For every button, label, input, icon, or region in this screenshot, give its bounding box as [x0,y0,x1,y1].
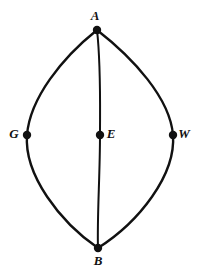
vertex-label-e: E [106,126,116,141]
diagram-background [0,0,207,276]
vertex-dot-b [94,244,102,252]
vertex-dot-g [23,131,31,139]
vertex-label-g: G [9,126,19,141]
vertex-label-b: B [93,253,103,268]
vertex-dot-a [93,26,101,34]
vertex-label-w: W [178,126,191,141]
vertex-dot-w [169,131,177,139]
vertex-dot-e [96,131,104,139]
geometric-diagram: AGEWB [0,0,207,276]
vertex-label-a: A [90,8,100,23]
